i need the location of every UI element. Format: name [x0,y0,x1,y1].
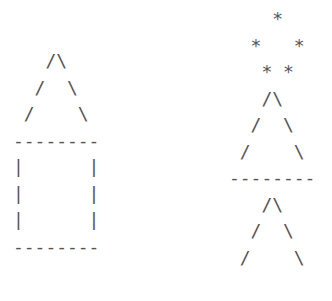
ascii-house: /\ / \ / \ -------- | | | | | | -------- [13,48,99,260]
ascii-tree: * * * * * /\ / \ / \ -------- /\ / \ / \ [229,6,315,271]
